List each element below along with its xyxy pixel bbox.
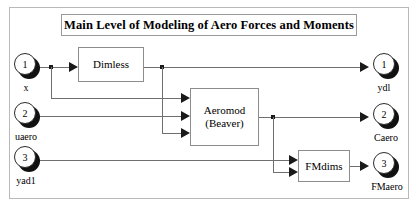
wire-uaero-to-aeromod: [38, 116, 181, 117]
arrow-into-aeromod-2: [181, 111, 190, 121]
input-port-1-label: x: [14, 82, 38, 93]
wire-x-to-dimless: [38, 67, 69, 68]
block-aeromod-label-line1: Aeromod: [204, 104, 246, 117]
input-port-1-number: 1: [23, 59, 28, 70]
output-port-2-number: 2: [382, 109, 387, 120]
input-port-3[interactable]: 3: [14, 146, 40, 172]
input-port-2-label: uaero: [8, 131, 44, 142]
arrow-into-fmaero: [360, 161, 369, 171]
output-port-3-number: 3: [382, 158, 387, 169]
wire-x-branch-down: [51, 67, 52, 98]
output-port-2[interactable]: 2: [373, 103, 399, 129]
block-fmdims[interactable]: FMdims: [298, 150, 350, 182]
arrow-into-aeromod-1: [181, 93, 190, 103]
output-port-2-label: Caero: [366, 132, 406, 143]
wire-dimless-branch-to-aeromod: [162, 133, 181, 134]
arrow-into-caero: [360, 112, 369, 122]
wire-aeromod-branch-to-fmdims: [273, 172, 289, 173]
output-port-1-label: ydl: [370, 82, 398, 93]
input-port-2-number: 2: [23, 108, 28, 119]
input-port-2[interactable]: 2: [14, 102, 40, 128]
input-port-2-circle: 2: [14, 102, 36, 124]
page-title: Main Level of Modeling of Aero Forces an…: [64, 18, 354, 33]
output-port-1-circle: 1: [373, 53, 395, 75]
wire-fmdims-to-fmaero: [350, 166, 360, 167]
input-port-1[interactable]: 1: [14, 53, 40, 79]
wire-aeromod-branch-down: [273, 117, 274, 172]
arrow-into-dimless: [69, 62, 78, 72]
arrow-into-ydl: [360, 62, 369, 72]
wire-dimless-to-ydl: [144, 67, 360, 68]
output-port-3[interactable]: 3: [373, 152, 399, 178]
input-port-3-number: 3: [23, 152, 28, 163]
block-aeromod-label-line2: (Beaver): [205, 117, 243, 130]
arrow-into-fmdims-2: [289, 167, 298, 177]
diagram-title-box: Main Level of Modeling of Aero Forces an…: [61, 14, 357, 36]
arrow-into-aeromod-3: [181, 128, 190, 138]
simulink-diagram-canvas: Main Level of Modeling of Aero Forces an…: [0, 0, 419, 208]
wire-yad1-to-fmdims: [38, 160, 289, 161]
block-dimless[interactable]: Dimless: [78, 47, 144, 82]
output-port-1[interactable]: 1: [373, 53, 399, 79]
block-fmdims-label: FMdims: [305, 160, 342, 173]
output-port-3-circle: 3: [373, 152, 395, 174]
arrow-into-fmdims-1: [289, 155, 298, 165]
input-port-1-circle: 1: [14, 53, 36, 75]
wire-dimless-branch-down: [162, 67, 163, 133]
input-port-3-circle: 3: [14, 146, 36, 168]
output-port-2-circle: 2: [373, 103, 395, 125]
output-port-3-label: FMaero: [362, 181, 412, 192]
output-port-1-number: 1: [382, 59, 387, 70]
block-aeromod[interactable]: Aeromod (Beaver): [190, 88, 259, 146]
input-port-3-label: yad1: [8, 175, 44, 186]
block-dimless-label: Dimless: [93, 58, 129, 71]
